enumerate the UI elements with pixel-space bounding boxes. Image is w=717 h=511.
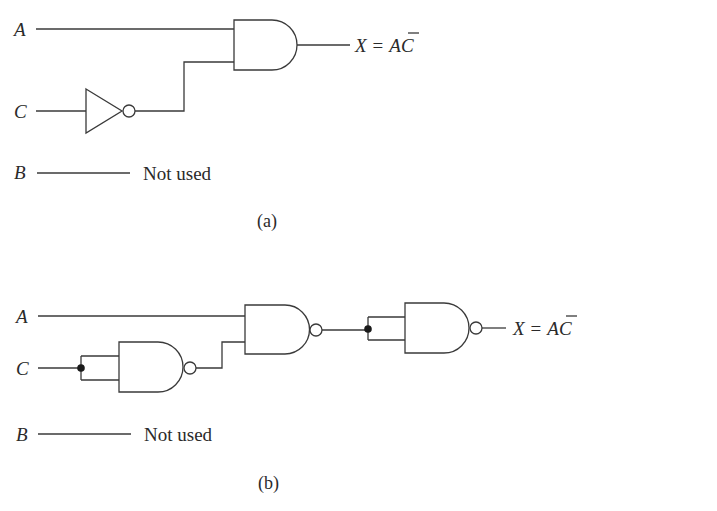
wire-c-tied bbox=[81, 356, 119, 380]
junction-dot-icon bbox=[364, 325, 372, 333]
caption-a: (a) bbox=[257, 211, 277, 232]
nand-gate-1-icon bbox=[119, 342, 183, 392]
nand-2-bubble-icon bbox=[310, 324, 322, 336]
output-expression-b: X=AC bbox=[512, 318, 572, 339]
inverter-bubble-icon bbox=[123, 105, 135, 117]
output-expression-a: X=AC bbox=[354, 35, 414, 56]
input-label-a: A bbox=[14, 306, 28, 327]
not-used-label-b: Not used bbox=[144, 424, 213, 445]
and-gate-icon bbox=[234, 20, 297, 70]
figure-a: A C B X=AC Not used (a) bbox=[12, 19, 419, 232]
logic-diagram: A C B X=AC Not used (a) A C B bbox=[0, 0, 717, 511]
nand-gate-2-icon bbox=[245, 305, 310, 354]
input-label-c: C bbox=[16, 358, 29, 379]
wire-nand3-tied bbox=[368, 317, 405, 340]
nand-gate-3-icon bbox=[405, 303, 469, 353]
input-label-a: A bbox=[12, 19, 26, 40]
wire-not-c bbox=[135, 62, 234, 111]
nand-3-bubble-icon bbox=[470, 322, 482, 334]
figure-b: A C B X=AC Not used (b) bbox=[14, 303, 577, 494]
input-label-c: C bbox=[14, 101, 27, 122]
not-gate-icon bbox=[86, 89, 122, 133]
not-used-label-a: Not used bbox=[143, 163, 212, 184]
wire-nand1-out bbox=[196, 342, 245, 368]
nand-1-bubble-icon bbox=[184, 362, 196, 374]
input-label-b: B bbox=[14, 162, 26, 183]
junction-dot-icon bbox=[77, 364, 85, 372]
input-label-b: B bbox=[16, 424, 28, 445]
caption-b: (b) bbox=[258, 473, 279, 494]
